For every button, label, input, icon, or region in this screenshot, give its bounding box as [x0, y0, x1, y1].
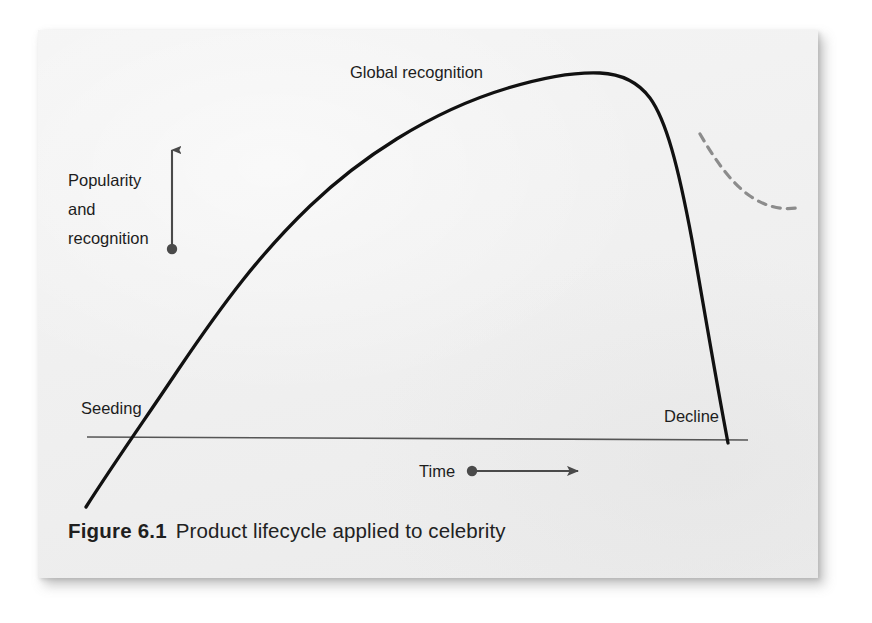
- x-axis-label: Time: [419, 462, 455, 480]
- figure-scan: Popularity and recognition Global recogn…: [0, 0, 872, 623]
- y-axis-origin-dot: [167, 244, 177, 254]
- y-axis-label-line-1: Popularity: [68, 171, 142, 189]
- figure-caption: Figure 6.1Product lifecycle applied to c…: [68, 519, 798, 543]
- annotation-seeding: Seeding: [81, 399, 142, 417]
- figure-caption-text: Product lifecycle applied to celebrity: [176, 519, 506, 542]
- lifecycle-curve: [86, 73, 728, 507]
- annotation-decline: Decline: [664, 407, 719, 425]
- figure-number: Figure 6.1: [68, 519, 167, 542]
- x-axis-baseline: [87, 437, 748, 440]
- alternative-trajectory-dashed-curve: [700, 134, 796, 209]
- y-axis-label-line-2: and: [68, 200, 96, 218]
- y-axis-label-line-3: recognition: [68, 229, 149, 247]
- product-lifecycle-chart: Popularity and recognition Global recogn…: [38, 30, 818, 578]
- annotation-global-recognition: Global recognition: [350, 63, 483, 81]
- scanned-page: Popularity and recognition Global recogn…: [38, 30, 818, 578]
